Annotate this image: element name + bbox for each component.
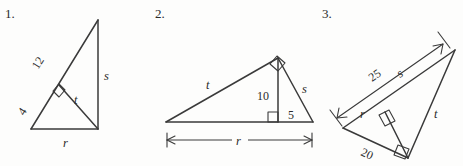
figure-3-label-s: s [394, 66, 406, 80]
worksheet-page: 1. 12 4 t s r 2. t 10 5 [0, 0, 463, 166]
figure-3-label-r: r [360, 107, 365, 121]
figure-3-label-20: 20 [359, 145, 376, 163]
figure-3-drawing: 25 s r 20 t [0, 0, 463, 166]
figure-3-label-t: t [434, 107, 438, 121]
figure-3-foot-right-angle-marker [379, 110, 395, 126]
figure-3-short-leg [343, 128, 408, 158]
figure-3-dim-line [337, 44, 443, 118]
figure-3-altitude [385, 112, 408, 158]
